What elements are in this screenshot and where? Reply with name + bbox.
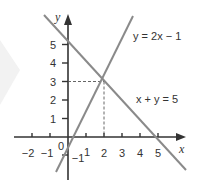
x-tick-label: 3 [119,147,125,159]
origin-label: 0 [58,140,64,152]
y-ticks [62,45,68,119]
x-tick-label: 2 [101,147,107,159]
y-tick-label: 4 [50,57,56,69]
background-decoration [0,40,20,105]
x-tick-label: 5 [155,147,161,159]
y-tick-label: 2 [50,94,56,106]
line2-equation-label: x + y = 5 [136,93,178,105]
y-tick-label: 5 [50,39,56,51]
y-tick-label-neg: −1 [72,152,85,164]
x-tick-label: −1 [41,147,54,159]
x-tick-label: −2 [22,147,35,159]
y-axis-label: y [54,10,61,24]
y-axis-arrow-icon [64,14,72,25]
x-axis-arrow-icon [176,133,186,141]
x-tick-label: 4 [137,147,143,159]
y-tick-label: 3 [50,76,56,88]
x-axis-label: x [178,142,185,156]
x-tick-label: 1 [84,146,90,158]
y-tick-label: 1 [50,113,56,125]
linear-equations-graph: −2 −1 1 2 3 4 5 0 −1 1 2 3 4 5 x y y = 2… [0,0,199,187]
line1-equation-label: y = 2x − 1 [133,30,181,42]
